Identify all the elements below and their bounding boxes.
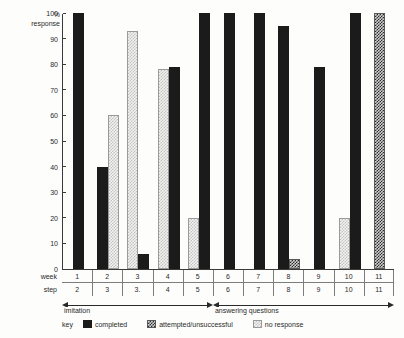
- completed-swatch: [83, 320, 92, 328]
- axis-row-week: week 1234567891011: [62, 270, 394, 283]
- axis-cell-step-4: 4: [153, 283, 183, 296]
- legend-label-noresponse: no response: [265, 321, 304, 328]
- bar-noresponse: [188, 218, 199, 269]
- y-tick-70: 70: [50, 86, 63, 93]
- axis-cell-week-10: 10: [334, 270, 364, 282]
- axis-separator: [243, 283, 244, 296]
- bar-completed: [224, 13, 235, 269]
- axis-separator: [183, 270, 184, 282]
- y-tick-40: 40: [50, 163, 63, 170]
- bar-attempted: [374, 13, 385, 269]
- axis-cell-step-3: 3.: [122, 283, 152, 296]
- legend-item-attempted: attempted/unsuccessful: [147, 320, 233, 328]
- legend-key-label: key: [62, 321, 73, 328]
- axis-cell-week-9: 9: [303, 270, 333, 282]
- y-tick-10: 10: [50, 240, 63, 247]
- axis-separator: [153, 270, 154, 282]
- axis-separator: [213, 270, 214, 282]
- axis-separator: [334, 270, 335, 282]
- axis-cell-week-4: 4: [153, 270, 183, 282]
- axis-cell-step-11: 11: [364, 283, 394, 296]
- axis-cell-step-8: 8: [273, 283, 303, 296]
- bar-noresponse: [108, 115, 119, 269]
- y-tick-100: 100: [46, 10, 63, 17]
- axis-separator: [393, 270, 394, 282]
- axis-cell-week-6: 6: [213, 270, 243, 282]
- axis-cell-step-9: 9: [303, 283, 333, 296]
- noresponse-swatch: [253, 320, 262, 328]
- axis-separator: [303, 283, 304, 296]
- axis-separator: [92, 283, 93, 296]
- bar-completed: [169, 67, 180, 269]
- bar-completed: [138, 254, 149, 269]
- axis-separator: [92, 270, 93, 282]
- legend: key completed attempted/unsuccessful no …: [62, 318, 317, 330]
- axis-separator: [122, 283, 123, 296]
- axis-separator: [364, 270, 365, 282]
- y-tick-20: 20: [50, 214, 63, 221]
- axis-separator: [122, 270, 123, 282]
- bar-group: [63, 14, 394, 269]
- axis-separator: [183, 283, 184, 296]
- bar-completed: [254, 13, 265, 269]
- axis-separator: [364, 283, 365, 296]
- legend-item-noresponse: no response: [253, 320, 304, 328]
- legend-label-completed: completed: [95, 321, 127, 328]
- axis-cell-step-6: 6: [213, 283, 243, 296]
- axis-separator: [334, 283, 335, 296]
- legend-item-completed: completed: [83, 320, 127, 328]
- phase-label: imitation: [62, 307, 92, 314]
- phase-imitation: imitation: [62, 299, 213, 313]
- phase-bar: imitationanswering questions: [62, 299, 394, 313]
- axis-separator: [213, 283, 214, 296]
- phase-line: [219, 305, 388, 306]
- bar-completed: [278, 26, 289, 269]
- axis-cell-step-7: 7: [243, 283, 273, 296]
- axis-cell-week-11: 11: [364, 270, 394, 282]
- bar-noresponse: [158, 69, 169, 269]
- axis-separator: [243, 270, 244, 282]
- axis-cell-week-3: 3: [122, 270, 152, 282]
- y-tick-90: 90: [50, 35, 63, 42]
- axis-row-week-label: week: [41, 270, 62, 283]
- y-tick-60: 60: [50, 112, 63, 119]
- chart-root: % response 0102030405060708090100 week 1…: [0, 0, 404, 338]
- phase-arrow-right: [388, 302, 394, 308]
- axis-row-step: step 233.4567891011: [62, 283, 394, 296]
- y-axis-title-line2: response: [28, 19, 60, 28]
- axis-cell-week-2: 2: [92, 270, 122, 282]
- axis-cell-week-8: 8: [273, 270, 303, 282]
- axis-cell-step-1: 2: [62, 283, 92, 296]
- axis-separator: [273, 270, 274, 282]
- axis-cell-step-5: 5: [183, 283, 213, 296]
- bar-attempted: [289, 259, 300, 269]
- bar-completed: [314, 67, 325, 269]
- bar-completed: [199, 13, 210, 269]
- phase-line: [68, 305, 207, 306]
- plot-area: 0102030405060708090100: [62, 14, 394, 270]
- bar-completed: [97, 167, 108, 269]
- axis-cell-step-10: 10: [334, 283, 364, 296]
- y-tick-30: 30: [50, 189, 63, 196]
- axis-cell-week-7: 7: [243, 270, 273, 282]
- attempted-swatch: [147, 320, 156, 328]
- bar-noresponse: [127, 31, 138, 269]
- bar-completed: [350, 13, 361, 269]
- axis-cell-week-1: 1: [62, 270, 92, 282]
- axis-row-step-label: step: [44, 283, 62, 296]
- axis-cell-step-2: 3: [92, 283, 122, 296]
- bar-completed: [73, 13, 84, 269]
- y-tick-80: 80: [50, 61, 63, 68]
- bar-noresponse: [339, 218, 350, 269]
- legend-label-attempted: attempted/unsuccessful: [159, 321, 233, 328]
- axis-separator: [153, 283, 154, 296]
- phase-answering-questions: answering questions: [213, 299, 394, 313]
- axis-separator: [303, 270, 304, 282]
- axis-separator: [393, 283, 394, 296]
- axis-cell-week-5: 5: [183, 270, 213, 282]
- y-tick-50: 50: [50, 138, 63, 145]
- axis-separator: [273, 283, 274, 296]
- phase-label: answering questions: [213, 307, 281, 314]
